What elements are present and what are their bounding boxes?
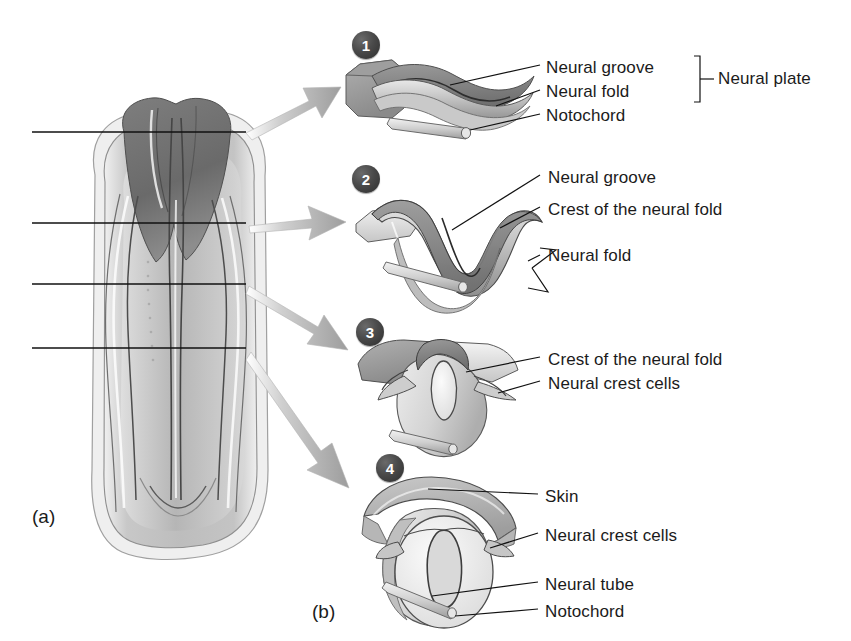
- illustration-layer: [0, 0, 851, 641]
- label-notochord-4: Notochord: [545, 602, 624, 621]
- panel-badge-1: 1: [352, 31, 380, 59]
- panel-2-illustration: [356, 200, 556, 313]
- part-label-a: (a): [32, 506, 55, 528]
- label-neural-fold-2: Neural fold: [548, 246, 631, 265]
- label-neural-plate-bracket: Neural plate: [718, 69, 811, 88]
- arrow-to-panel-1: [246, 87, 341, 140]
- label-neural-crest-cells-4: Neural crest cells: [545, 526, 677, 545]
- neural-plate-bracket: [694, 56, 700, 102]
- panel-badge-3: 3: [356, 318, 384, 346]
- part-label-b: (b): [312, 601, 335, 623]
- panel-badge-4: 4: [376, 454, 404, 482]
- panel-3-illustration: [358, 340, 518, 457]
- label-neural-groove-2: Neural groove: [548, 168, 656, 187]
- label-crest-of-neural-fold-2: Crest of the neural fold: [548, 200, 722, 219]
- panel-badge-2: 2: [352, 165, 380, 193]
- figure-canvas: 1 2 3 4 Neural groove Neural fold Notoch…: [0, 0, 851, 641]
- embryo-illustration: [92, 98, 268, 560]
- label-notochord-1: Notochord: [546, 106, 625, 125]
- label-neural-fold-1: Neural fold: [546, 82, 629, 101]
- panel-4-illustration: [362, 477, 516, 628]
- label-neural-tube-4: Neural tube: [545, 575, 634, 594]
- leader-crest-cells-3: [498, 381, 540, 393]
- panel-1-illustration: [346, 60, 534, 139]
- label-neural-groove-1: Neural groove: [546, 58, 654, 77]
- leader-neural-fold-2: [528, 255, 540, 261]
- label-neural-crest-cells-3: Neural crest cells: [548, 374, 680, 393]
- label-skin-4: Skin: [545, 487, 578, 506]
- label-crest-of-neural-fold-3: Crest of the neural fold: [548, 350, 722, 369]
